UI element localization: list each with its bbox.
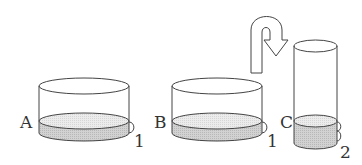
height-label-b: 1 <box>267 131 278 151</box>
u-turn-arrow-icon <box>251 17 288 74</box>
label-c: C <box>280 112 293 132</box>
cylinder-c <box>294 40 341 149</box>
label-b: B <box>154 112 167 132</box>
cylinder-a <box>39 78 134 141</box>
diagram-canvas: A 1 B 1 C 2 <box>0 0 362 165</box>
label-a: A <box>19 112 33 132</box>
height-label-c: 2 <box>340 142 351 162</box>
height-label-a: 1 <box>134 131 145 151</box>
cylinder-b <box>172 78 267 141</box>
